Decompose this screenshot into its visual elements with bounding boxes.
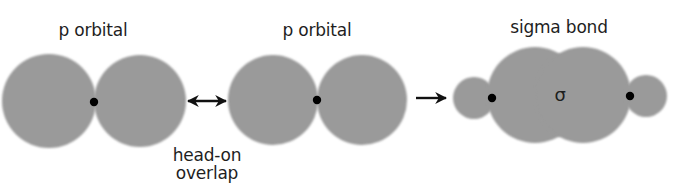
nucleus-dot <box>626 92 634 100</box>
p-orbital-left <box>2 54 186 148</box>
p-orbital-middle-label: p orbital <box>282 22 351 39</box>
p-orbital-middle <box>228 55 407 145</box>
sigma-large-lobe-right <box>535 47 631 143</box>
nucleus-dot <box>90 98 98 106</box>
p-orbital-middle-lobe-2 <box>317 55 407 145</box>
p-orbital-middle-lobe-1 <box>228 55 318 145</box>
head-on-label: head-on <box>173 147 242 164</box>
p-orbital-left-lobe-2 <box>94 55 186 147</box>
p-orbital-left-lobe-1 <box>2 54 96 148</box>
sigma-bond-diagram: p orbital p orbital sigma bond head-on o… <box>0 0 677 189</box>
overlap-label: overlap <box>176 165 238 182</box>
sigma-bond-label: sigma bond <box>510 19 608 36</box>
p-orbital-left-label: p orbital <box>58 22 127 39</box>
sigma-symbol: σ <box>554 86 565 104</box>
nucleus-dot <box>313 96 321 104</box>
nucleus-dot <box>488 94 496 102</box>
